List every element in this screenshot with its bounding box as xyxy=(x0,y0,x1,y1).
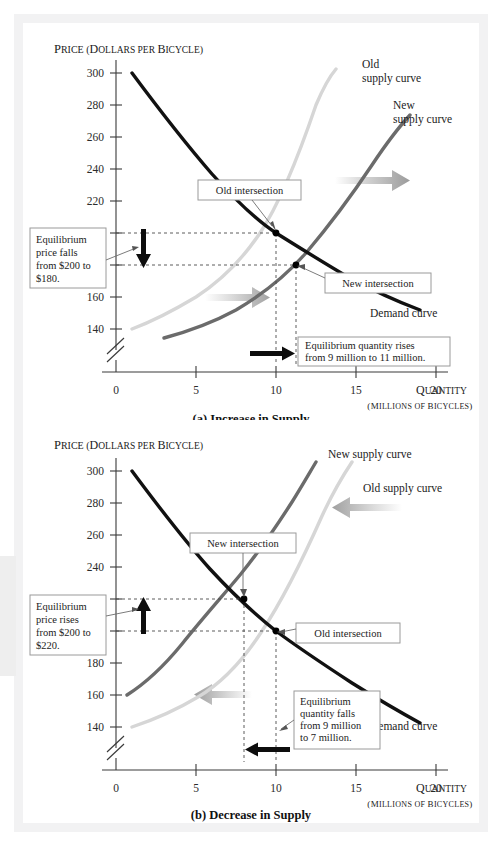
panel-a-demand-label: Demand curve xyxy=(370,307,437,319)
svg-text:280: 280 xyxy=(87,497,105,509)
svg-text:240: 240 xyxy=(87,163,105,175)
panel-b-quantity-callout-line3: from 9 million xyxy=(300,720,362,731)
panel-a-price-callout-line3: from $200 to xyxy=(36,260,91,271)
svg-text:15: 15 xyxy=(350,782,362,794)
panel-b-old-intersection-label: Old intersection xyxy=(314,628,382,639)
svg-text:10: 10 xyxy=(270,782,282,794)
panel-a-old-intersection-dot xyxy=(273,230,280,237)
panel-a-caption: (a) Increase in Supply xyxy=(193,412,311,420)
panel-b-price-callout-line3: from $200 to xyxy=(36,627,91,638)
panel-b-quantity-callout-line1: Equilibrium xyxy=(300,696,351,707)
panel-a-chart: PRICE (DOLLARS PER BICYCLE) 300 280 260 … xyxy=(0,20,502,420)
panel-b-caption: (b) Decrease in Supply xyxy=(191,808,312,822)
panel-a-old-intersection-callout: Old intersection xyxy=(198,180,301,231)
panel-a-quantity-callout-line2: from 9 million to 11 million. xyxy=(305,352,425,363)
panel-a-quantity-callout-line1: Equilibrium quantity rises xyxy=(305,340,415,351)
panel-b-decrease-in-supply: PRICE (DOLLARS PER BICYCLE) 300 280 260 … xyxy=(0,420,502,835)
panel-a-price-fall-arrow xyxy=(136,229,151,268)
panel-b-quantity-callout-line4: to 7 million. xyxy=(300,732,352,743)
svg-text:240: 240 xyxy=(87,561,105,573)
panel-a-price-axis-title: PRICE (DOLLARS PER BICYCLE) xyxy=(54,42,203,56)
panel-b-new-supply-label: New supply curve xyxy=(328,448,412,461)
panel-b-shift-arrow-upper xyxy=(332,497,402,518)
svg-text:260: 260 xyxy=(87,131,105,143)
panel-b-price-callout-line4: $220. xyxy=(36,640,60,651)
panel-a-quantity-callout: Equilibrium quantity rises from 9 millio… xyxy=(298,337,450,366)
panel-b-price-axis-title: PRICE (DOLLARS PER BICYCLE) xyxy=(54,438,203,452)
panel-a-new-intersection-dot xyxy=(293,262,300,269)
panel-b-new-supply-curve xyxy=(127,462,316,695)
panel-a-new-intersection-callout: New intersection xyxy=(297,264,431,293)
panel-a-price-callout: Equilibrium price falls from $200 to $18… xyxy=(30,228,139,288)
panel-a-shift-arrow-lower xyxy=(205,287,270,308)
panel-a-quantity-axis-title: QUANTITY xyxy=(416,383,467,397)
panel-a-price-callout-line2: price falls xyxy=(36,247,78,258)
svg-text:300: 300 xyxy=(87,465,105,477)
panel-a-price-callout-line4: $180. xyxy=(36,273,60,284)
figure-page: PRICE (DOLLARS PER BICYCLE) 300 280 260 … xyxy=(0,0,502,847)
svg-text:0: 0 xyxy=(113,782,119,794)
panel-a-quantity-axis-units: (MILLIONS OF BICYCLES) xyxy=(367,401,472,411)
svg-text:300: 300 xyxy=(87,67,105,79)
panel-b-old-supply-curve xyxy=(132,462,352,727)
panel-a-quantity-rise-arrow xyxy=(250,347,295,361)
panel-b-price-callout-line2: price rises xyxy=(36,614,79,625)
svg-text:180: 180 xyxy=(87,657,105,669)
svg-text:160: 160 xyxy=(87,689,105,701)
svg-text:140: 140 xyxy=(87,721,105,733)
svg-text:220: 220 xyxy=(87,195,105,207)
panel-a-old-supply-label-line1: Old xyxy=(362,58,380,70)
panel-a-old-supply-label-line2: supply curve xyxy=(362,72,421,85)
panel-a-new-supply-label-line2: supply curve xyxy=(393,113,452,126)
panel-b-new-intersection-label: New intersection xyxy=(207,538,279,549)
panel-a-new-intersection-label: New intersection xyxy=(342,278,414,289)
panel-b-guidelines xyxy=(116,599,276,762)
panel-b-quantity-fall-arrow xyxy=(245,743,290,757)
panel-a-new-supply-curve xyxy=(164,115,410,338)
panel-b-old-intersection-callout: Old intersection xyxy=(277,623,400,643)
panel-a-increase-in-supply: PRICE (DOLLARS PER BICYCLE) 300 280 260 … xyxy=(0,20,502,420)
panel-a-shift-arrow-upper xyxy=(335,170,410,191)
panel-b-quantity-callout-line2: quantity falls xyxy=(300,708,355,719)
panel-b-old-supply-label: Old supply curve xyxy=(363,482,442,495)
svg-text:5: 5 xyxy=(193,782,199,794)
svg-text:10: 10 xyxy=(270,384,282,396)
panel-b-old-intersection-dot xyxy=(273,628,280,635)
panel-b-price-callout-line1: Equilibrium xyxy=(36,601,87,612)
panel-b-quantity-axis-title: QUANTITY xyxy=(416,781,467,795)
panel-a-new-supply-label-line1: New xyxy=(393,99,415,111)
svg-text:15: 15 xyxy=(350,384,362,396)
panel-b-price-rise-arrow xyxy=(136,597,151,634)
panel-b-x-ticks: 0 5 10 15 20 xyxy=(113,764,442,794)
panel-a-old-intersection-label: Old intersection xyxy=(216,185,284,196)
svg-text:260: 260 xyxy=(87,529,105,541)
svg-text:280: 280 xyxy=(87,99,105,111)
panel-a-x-ticks: 0 5 10 15 20 xyxy=(113,366,442,396)
panel-b-quantity-callout: Equilibrium quantity falls from 9 millio… xyxy=(279,691,380,749)
panel-a-y-ticks: 300 280 260 240 220 200 180 160 140 xyxy=(87,67,122,335)
panel-a-price-callout-line1: Equilibrium xyxy=(36,234,87,245)
svg-text:0: 0 xyxy=(113,384,119,396)
svg-text:5: 5 xyxy=(193,384,199,396)
panel-b-chart: PRICE (DOLLARS PER BICYCLE) 300 280 260 … xyxy=(0,420,502,835)
svg-text:140: 140 xyxy=(87,323,105,335)
panel-b-price-callout: Equilibrium price rises from $200 to $22… xyxy=(30,595,139,655)
svg-text:160: 160 xyxy=(87,291,105,303)
panel-b-quantity-axis-units: (MILLIONS OF BICYCLES) xyxy=(367,799,472,809)
